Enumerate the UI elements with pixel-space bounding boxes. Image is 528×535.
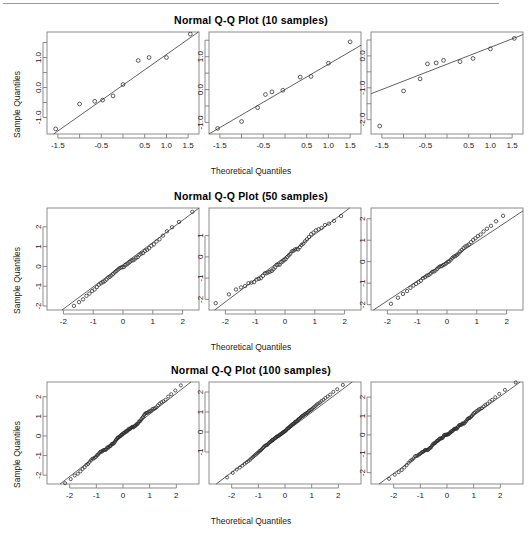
qq-panel: -2-1012-2-1012 [349,204,528,336]
y-tick-label: 1.0 [34,51,43,63]
row-title: Normal Q-Q Plot (50 samples) [0,190,502,202]
x-tick-label: 0.5 [301,141,313,150]
data-point [503,388,506,391]
x-tick-label: 2 [174,491,179,500]
data-point [136,59,140,63]
data-point [164,398,167,401]
x-tick-label: 1 [147,491,152,500]
data-point [332,390,335,393]
x-tick-label: -1 [255,491,263,500]
data-point [479,233,482,236]
data-point [264,93,268,97]
data-point [111,94,115,98]
y-axis-label: Sample Quantiles [12,71,22,138]
y-tick-label: 1 [34,414,43,419]
data-point [491,398,494,401]
plot-frame [209,208,361,310]
x-tick-label: 2 [342,317,347,326]
x-tick-label: 1 [475,317,480,326]
data-point [388,477,391,480]
x-tick-label: -2 [66,491,74,500]
x-tick-label: 0 [121,491,126,500]
data-point [471,57,475,61]
qq-panel: -2-1012-2-1012 [25,378,207,510]
y-tick-label: 0.0 [34,81,43,93]
data-point [257,277,260,280]
row-title: Normal Q-Q Plot (10 samples) [0,14,502,26]
x-tick-label: 0 [283,491,288,500]
data-point [418,77,422,81]
data-point [76,472,79,475]
qq-points [72,210,194,307]
data-point [85,294,88,297]
y-tick-label: 1.0 [196,51,205,63]
y-tick-label: 0 [196,429,205,434]
plot-frame [371,208,523,310]
x-tick-label: 1.5 [507,141,519,150]
data-point [226,476,229,479]
y-axis-label: Sample Quantiles [12,421,22,488]
qq-reference-line [54,32,199,134]
x-tick-label: 0 [121,317,126,326]
y-tick-label: 0 [34,433,43,438]
data-point [458,60,462,64]
y-tick-label: -1 [358,450,367,458]
y-tick-label: -2 [358,469,367,477]
x-tick-label: 0 [283,317,288,326]
top-divider-rule [3,3,499,4]
qq-points [214,214,343,305]
data-point [401,292,404,295]
data-point [494,220,497,223]
data-point [482,230,485,233]
x-tick-label: -2 [228,491,236,500]
x-tick-label: -1 [93,491,101,500]
data-point [174,389,177,392]
data-point [489,224,492,227]
y-tick-label: -1.0 [358,80,367,94]
qq-panel: -2-1012-2-1012 [349,378,528,510]
data-point [147,56,151,60]
data-point [494,396,497,399]
data-point [402,89,406,93]
data-point [389,302,392,305]
qq-panel: -2-1012-1012 [187,378,369,510]
x-tick-label: 1 [151,317,156,326]
y-tick-label: 2 [358,394,367,399]
y-tick-label: -1.0 [34,110,43,124]
qq-points [378,36,516,127]
qq-panel: -1.5-0.50.51.01.5-2.0-1.00.0 [349,28,528,160]
y-tick-label: 0 [358,259,367,264]
y-tick-label: 1 [196,409,205,414]
data-point [341,383,344,386]
y-tick-label: 2 [34,394,43,399]
x-axis-label: Theoretical Quantiles [0,342,502,352]
row-title: Normal Q-Q Plot (100 samples) [0,364,502,376]
x-tick-label: -0.5 [418,141,432,150]
data-point [498,392,501,395]
x-tick-label: 1 [313,317,318,326]
x-tick-label: 1 [309,491,314,500]
y-tick-label: 1 [358,413,367,418]
data-point [501,214,504,217]
x-tick-label: 0 [445,491,450,500]
y-tick-label: -2 [34,471,43,479]
data-point [240,120,244,124]
data-point [378,124,382,128]
y-tick-label: -1 [358,279,367,287]
y-tick-label: 0 [34,264,43,269]
x-tick-label: 1.0 [161,141,173,150]
x-tick-label: -1 [414,317,422,326]
data-point [93,99,97,103]
data-point [485,227,488,230]
qq-panel: -1.5-0.50.51.01.5-1.00.01.0 [187,28,369,160]
data-point [179,384,182,387]
x-tick-label: -0.5 [256,141,270,150]
x-tick-label: -1 [252,317,260,326]
qq-points [226,383,345,479]
qq-panel: -2-1012-2-1012 [25,204,207,336]
data-point [396,296,399,299]
data-point [227,293,230,296]
y-axis-label: Sample Quantiles [12,247,22,314]
data-point [158,238,161,241]
y-tick-label: -2 [358,301,367,309]
